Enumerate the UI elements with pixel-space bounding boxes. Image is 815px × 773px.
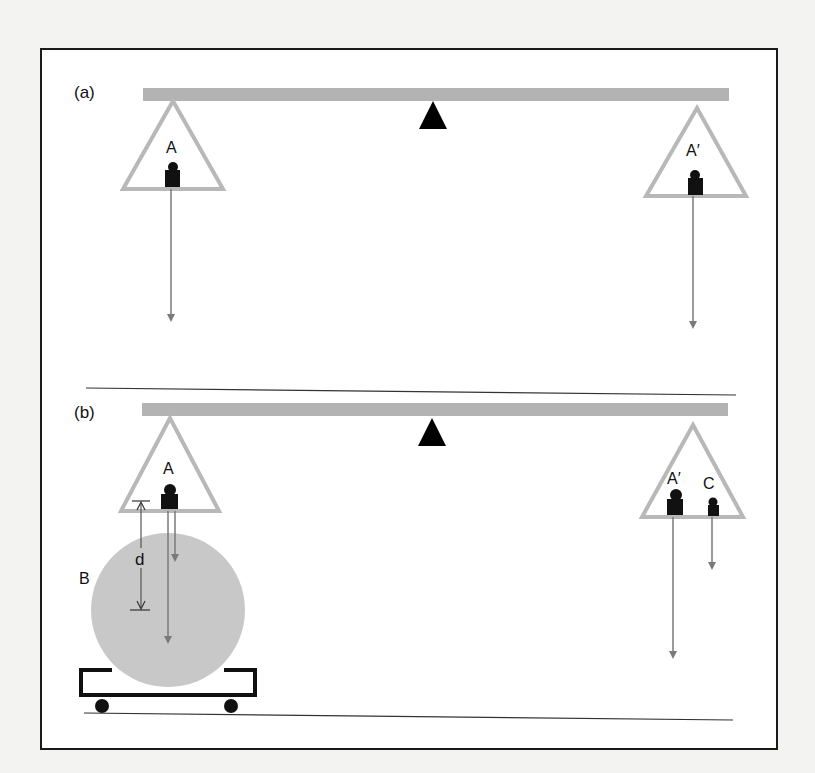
panel-a-label: (a) <box>74 83 95 102</box>
balance-beam <box>142 403 728 416</box>
panel-b-label: (b) <box>74 403 95 422</box>
left-pan-label: A <box>163 460 174 477</box>
balance-diagram: (a) A A′ (b) A <box>0 0 815 773</box>
wheel-icon <box>95 699 109 713</box>
sphere-label: B <box>79 570 90 587</box>
balance-beam <box>143 88 729 101</box>
wheel-icon <box>224 699 238 713</box>
weight-c-label: C <box>703 475 715 492</box>
right-pan-label: A′ <box>686 142 700 159</box>
right-pan-label: A′ <box>667 470 681 487</box>
left-pan-label: A <box>166 139 177 156</box>
distance-label: d <box>135 550 144 569</box>
